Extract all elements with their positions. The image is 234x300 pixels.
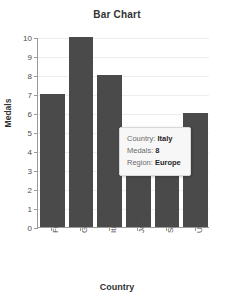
x-tick-label: Italy bbox=[109, 218, 118, 233]
y-tick-label: 3 bbox=[28, 167, 32, 176]
chart-tooltip: Country: ItalyMedals: 8Region: Europe bbox=[119, 127, 191, 176]
bar-chart: Bar Chart Medals 012345678910 FranceGerm… bbox=[0, 0, 234, 300]
tooltip-value: Italy bbox=[157, 134, 172, 143]
tooltip-label: Country: bbox=[127, 134, 157, 143]
y-tick-label: 6 bbox=[28, 110, 32, 119]
y-tick-label: 4 bbox=[28, 148, 32, 157]
tooltip-row: Region: Europe bbox=[127, 157, 183, 169]
tooltip-value: 8 bbox=[155, 146, 159, 155]
tooltip-row: Country: Italy bbox=[127, 133, 183, 145]
y-tick-label: 0 bbox=[28, 224, 32, 233]
x-tick-label: USA bbox=[195, 217, 204, 233]
y-axis-title: Medals bbox=[3, 83, 13, 143]
x-tick-label: Japan bbox=[137, 211, 146, 233]
bar-germany[interactable] bbox=[69, 37, 94, 227]
y-tick-mark bbox=[34, 228, 38, 229]
x-tick-label: Germany bbox=[80, 200, 89, 233]
x-axis-title: Country bbox=[0, 282, 234, 292]
chart-title: Bar Chart bbox=[0, 9, 234, 20]
y-tick-label: 7 bbox=[28, 91, 32, 100]
tooltip-row: Medals: 8 bbox=[127, 145, 183, 157]
y-tick-label: 8 bbox=[28, 72, 32, 81]
x-tick-label: Spain bbox=[166, 213, 175, 233]
tooltip-label: Medals: bbox=[127, 146, 155, 155]
y-tick-label: 1 bbox=[28, 205, 32, 214]
y-tick-label: 9 bbox=[28, 53, 32, 62]
x-tick-label: France bbox=[51, 208, 60, 233]
tooltip-label: Region: bbox=[127, 158, 155, 167]
y-tick-label: 5 bbox=[28, 129, 32, 138]
tooltip-value: Europe bbox=[155, 158, 181, 167]
y-tick-label: 10 bbox=[23, 34, 32, 43]
y-tick-label: 2 bbox=[28, 186, 32, 195]
